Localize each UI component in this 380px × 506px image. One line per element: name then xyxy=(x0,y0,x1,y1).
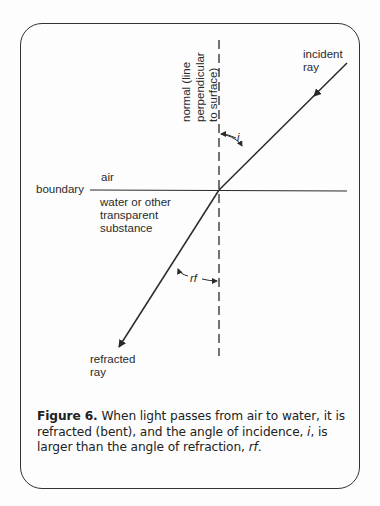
incident-ray-label: incident ray xyxy=(303,48,343,74)
air-label: air xyxy=(101,171,114,184)
angle-i-label: i xyxy=(237,131,240,144)
angle-rf-arc xyxy=(178,269,188,276)
normal-label: normal (line perpendicular to surface) xyxy=(180,52,221,122)
water-label: water or other transparent substance xyxy=(100,196,171,235)
incident-ray xyxy=(219,63,347,190)
boundary-label: boundary xyxy=(36,183,84,196)
figure-number: Figure 6. xyxy=(37,409,98,423)
angle-rf-label: rf xyxy=(190,272,197,285)
refracted-ray-label: refracted ray xyxy=(90,353,135,379)
figure-caption: Figure 6. When light passes from air to … xyxy=(37,409,357,456)
